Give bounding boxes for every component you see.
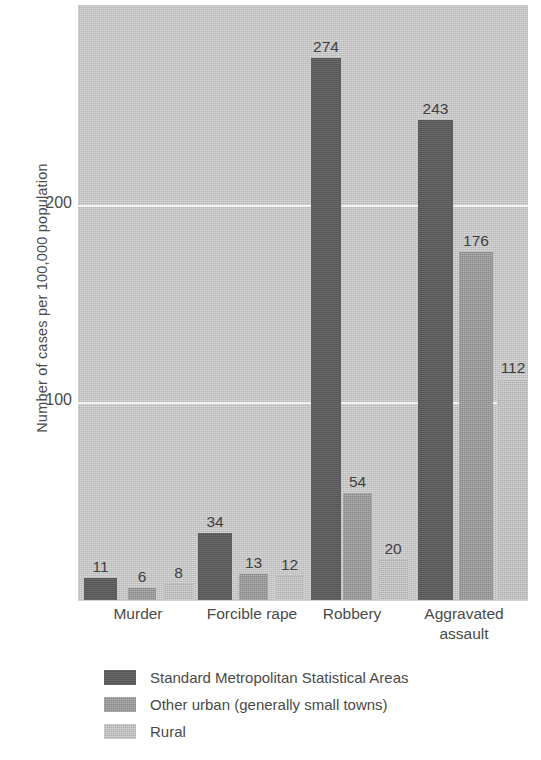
legend-swatch-icon: [104, 724, 136, 739]
y-axis-tick-label: 100: [12, 391, 72, 409]
legend-swatch-icon: [104, 670, 136, 685]
legend-item-label: Standard Metropolitan Statistical Areas: [150, 669, 408, 686]
category-label-line: assault: [394, 624, 534, 644]
legend-item-label: Rural: [150, 723, 186, 740]
bar: [84, 578, 117, 600]
chart-legend: Standard Metropolitan Statistical AreasO…: [104, 664, 504, 745]
x-axis-category-labels: MurderForcible rapeRobberyAggravatedassa…: [78, 604, 528, 652]
bar-value-label: 8: [152, 564, 205, 582]
bar-value-label: 274: [299, 38, 353, 56]
legend-item-label: Other urban (generally small towns): [150, 696, 388, 713]
y-axis-tick-group: 200100: [8, 0, 72, 601]
legend-item: Rural: [104, 718, 504, 745]
bar-value-label: 12: [263, 556, 316, 574]
category-label-line: Aggravated: [394, 604, 534, 624]
chart-plot-area: 11342742436135417681220112: [78, 5, 528, 601]
legend-swatch-icon: [104, 697, 136, 712]
bar-value-label: 176: [447, 232, 505, 250]
bar-value-label: 34: [186, 513, 244, 531]
bar-value-label: 243: [406, 100, 465, 118]
bar: [378, 560, 408, 600]
gridline-200: [78, 205, 528, 207]
bar-value-label: 20: [366, 540, 420, 558]
x-axis-category-label: Aggravatedassault: [394, 604, 534, 644]
bar: [164, 584, 193, 600]
bar: [311, 58, 341, 600]
bar: [459, 252, 493, 600]
bar: [128, 588, 156, 600]
bar-value-label: 54: [331, 473, 384, 491]
bar: [497, 379, 528, 600]
bar: [418, 120, 453, 600]
bar-value-label: 112: [485, 359, 528, 377]
y-axis-tick-label: 200: [12, 194, 72, 212]
bar: [239, 574, 268, 600]
legend-item: Other urban (generally small towns): [104, 691, 504, 718]
bar: [275, 576, 304, 600]
legend-item: Standard Metropolitan Statistical Areas: [104, 664, 504, 691]
